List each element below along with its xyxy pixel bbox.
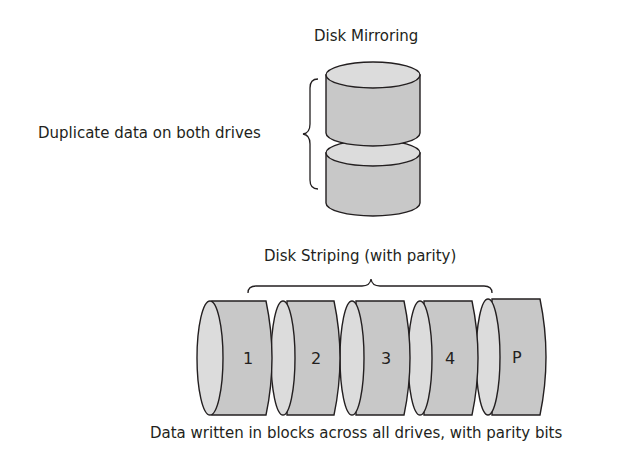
mirroring-brace xyxy=(303,79,318,189)
drive-label: 1 xyxy=(243,349,253,368)
drive-2: 2 xyxy=(271,301,340,415)
drive-label: 4 xyxy=(445,349,455,368)
drive-3: 3 xyxy=(340,301,410,415)
mirror-drive-bottom xyxy=(326,140,420,216)
raid-diagram: P 4 3 2 1 xyxy=(0,0,643,461)
drive-1: 1 xyxy=(197,301,272,415)
drive-4: 4 xyxy=(408,301,478,415)
drive-label: 3 xyxy=(381,349,391,368)
striping-brace xyxy=(248,279,492,293)
drive-label: 2 xyxy=(311,349,321,368)
drive-label: P xyxy=(512,348,522,367)
drive-P: P xyxy=(476,299,546,415)
mirror-drive-top xyxy=(326,62,420,146)
